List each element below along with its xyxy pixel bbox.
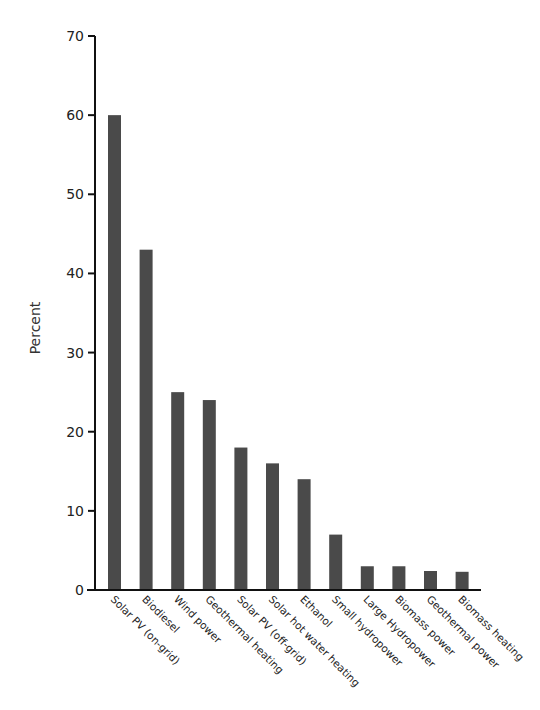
y-axis: 010203040506070 xyxy=(66,28,95,598)
bars xyxy=(108,115,469,590)
bar xyxy=(108,115,121,590)
bar xyxy=(456,572,469,590)
y-tick-label: 40 xyxy=(66,265,84,281)
bar xyxy=(266,463,279,590)
bar xyxy=(361,566,374,590)
y-tick-label: 10 xyxy=(66,503,84,519)
bar xyxy=(298,479,311,590)
y-tick-label: 20 xyxy=(66,424,84,440)
bar xyxy=(234,448,247,590)
x-axis: Solar PV (on-grid)BiodieselWind powerGeo… xyxy=(87,590,526,689)
bar xyxy=(424,571,437,590)
y-tick-label: 70 xyxy=(66,28,84,44)
y-axis-label: Percent xyxy=(27,301,43,354)
bar-chart: 010203040506070 Solar PV (on-grid)Biodie… xyxy=(0,0,540,710)
bar xyxy=(392,566,405,590)
bar xyxy=(329,535,342,590)
y-tick-label: 50 xyxy=(66,186,84,202)
bar xyxy=(140,250,153,590)
y-tick-label: 60 xyxy=(66,107,84,123)
bar xyxy=(203,400,216,590)
y-tick-label: 0 xyxy=(75,582,84,598)
y-tick-label: 30 xyxy=(66,345,84,361)
bar xyxy=(171,392,184,590)
